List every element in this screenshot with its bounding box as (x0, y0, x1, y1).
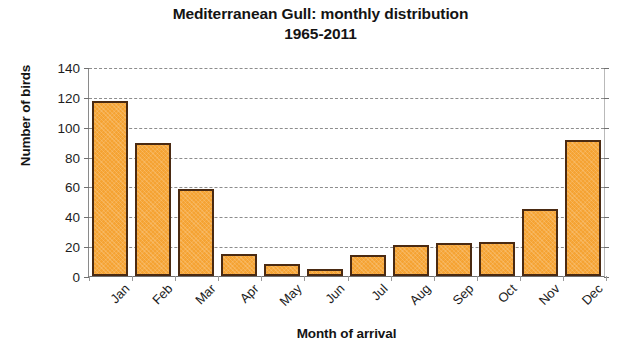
x-axis-tick-label-mar: Mar (192, 281, 218, 307)
y-axis-tick-label: 60 (38, 180, 80, 195)
x-axis-tick-label-nov: Nov (536, 281, 563, 308)
y-axis-tick-label: 80 (38, 150, 80, 165)
y-axis-tick-label: 120 (38, 90, 80, 105)
x-axis-tick-label-oct: Oct (495, 281, 520, 306)
x-axis-tick-label-jan: Jan (107, 281, 132, 306)
y-axis-tick-label: 40 (38, 210, 80, 225)
x-axis-tick-label-feb: Feb (149, 281, 175, 307)
x-axis-title: Month of arrival (88, 326, 605, 341)
y-axis-tick-label: 140 (38, 61, 80, 76)
x-axis-tick-label-may: May (277, 281, 305, 309)
x-axis-tick-label-apr: Apr (236, 281, 261, 306)
x-axis-tick-label-aug: Aug (407, 281, 434, 308)
y-axis-tick-label: 20 (38, 240, 80, 255)
x-axis-tick-label-jun: Jun (322, 281, 347, 306)
y-axis-tick-label: 0 (38, 270, 80, 285)
x-axis-tick-label-dec: Dec (579, 281, 606, 308)
x-axis-tick-label-jul: Jul (368, 281, 390, 303)
x-axis-tick-label-sep: Sep (450, 281, 477, 308)
y-axis-tick-label: 100 (38, 120, 80, 135)
x-axis-tick-labels: JanFebMarAprMayJunJulAugSepOctNovDec (88, 279, 605, 323)
